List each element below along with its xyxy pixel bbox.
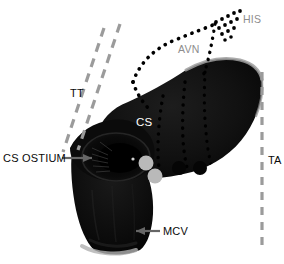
label-his: HIS xyxy=(243,14,261,25)
label-cs: CS xyxy=(136,117,152,129)
ablation-marker-2 xyxy=(148,169,163,184)
label-cs-ostium: CS OSTIUM xyxy=(3,153,66,164)
anatomical-figure: TT TA CS HIS AVN CS OSTIUM MCV xyxy=(0,0,284,264)
his-bundle-dots xyxy=(214,9,242,42)
ablation-marker-3 xyxy=(172,161,186,175)
ablation-marker-4 xyxy=(193,161,207,175)
label-avn: AVN xyxy=(178,44,199,55)
specimen-illustration xyxy=(0,0,284,264)
label-ta: TA xyxy=(268,155,282,166)
cs-ostium-opening xyxy=(82,133,150,181)
label-mcv: MCV xyxy=(163,226,188,237)
label-tt: TT xyxy=(70,88,84,99)
ablation-marker-1 xyxy=(139,156,154,171)
